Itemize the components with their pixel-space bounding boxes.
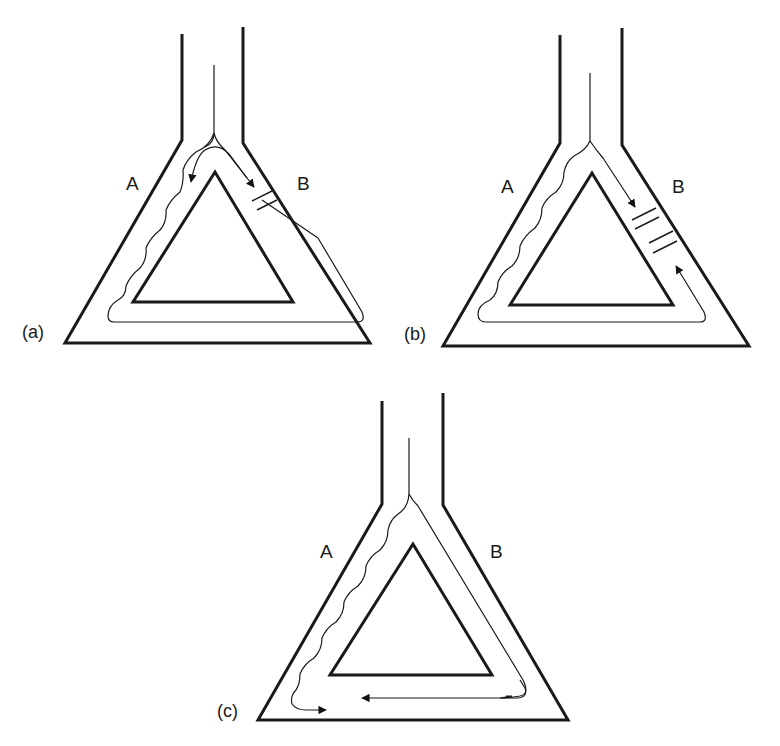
outer-wall <box>443 28 749 346</box>
block-bar-4 <box>653 241 677 253</box>
wavy-path-a <box>292 494 410 710</box>
label-branch-b: B <box>672 176 685 197</box>
panel-tag: (b) <box>404 324 426 344</box>
inner-triangle <box>133 172 293 302</box>
bottom-return-b <box>362 680 526 698</box>
inlet-stem <box>205 65 214 147</box>
panel-a: A B (a) <box>22 27 370 343</box>
block-bar-1 <box>632 208 656 220</box>
label-branch-a: A <box>126 173 139 194</box>
outer-wall-left <box>65 27 370 343</box>
inner-triangle <box>510 173 673 305</box>
loop-right-segment <box>262 200 318 238</box>
block-bar-2 <box>635 217 659 229</box>
label-branch-a: A <box>501 176 514 197</box>
label-branch-b: B <box>297 173 310 194</box>
panel-tag: (c) <box>217 701 238 721</box>
straight-path-b <box>590 141 635 207</box>
block-bar-3 <box>649 231 673 243</box>
wavy-path-a <box>108 133 363 322</box>
inner-triangle <box>330 544 492 675</box>
panel-tag: (a) <box>22 322 44 342</box>
figure-canvas: A B (a) A B (b) A B (c) <box>0 0 780 746</box>
panel-c: A B (c) <box>217 393 568 721</box>
block-bar-1 <box>252 191 272 201</box>
label-branch-a: A <box>320 541 333 562</box>
label-branch-b: B <box>490 541 503 562</box>
panel-b: A B (b) <box>404 28 749 346</box>
straight-path-b <box>409 494 526 698</box>
outer-wall <box>258 393 568 720</box>
